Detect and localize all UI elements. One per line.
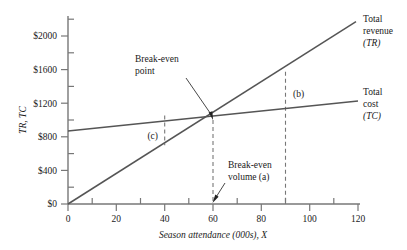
- y-axis-tick-labels: $0 $400 $800 $1200 $1600 $2000: [33, 31, 57, 209]
- x-tick-label-0: 0: [66, 214, 71, 224]
- total-cost-line: [68, 101, 358, 131]
- total-revenue-label-line2: revenue: [363, 26, 393, 36]
- y-tick-label-0: $0: [48, 199, 58, 209]
- total-cost-label: Total cost (TC): [363, 87, 383, 122]
- y-axis-title: TR, TC: [18, 106, 28, 134]
- break-even-point-arrowhead: [209, 111, 213, 120]
- break-even-volume-line1: Break-even: [228, 160, 272, 170]
- total-revenue-label: Total revenue (TR): [363, 14, 393, 49]
- segment-label-b: (b): [293, 89, 304, 100]
- total-revenue-label-line1: Total: [363, 14, 383, 24]
- total-cost-label-line1: Total: [363, 87, 383, 97]
- total-cost-label-line2: cost: [363, 99, 379, 109]
- break-even-point-arrow-line: [186, 78, 212, 115]
- x-axis-tick-labels: 0 20 40 60 80 100 120: [66, 214, 366, 224]
- x-tick-label-80: 80: [257, 214, 267, 224]
- total-revenue-label-line3: (TR): [363, 38, 380, 49]
- break-even-volume-annotation: Break-even volume (a): [213, 160, 273, 203]
- y-tick-label-2000: $2000: [33, 31, 57, 41]
- y-axis-major-ticks: [61, 36, 68, 204]
- y-tick-label-1600: $1600: [33, 65, 57, 75]
- break-even-volume-line2: volume (a): [228, 172, 269, 183]
- y-tick-label-1200: $1200: [33, 99, 57, 109]
- y-tick-label-400: $400: [38, 166, 57, 176]
- total-cost-label-line3: (TC): [363, 111, 381, 122]
- x-axis-title: Season attendance (000s), X: [159, 230, 268, 241]
- break-even-point-line2: point: [135, 66, 155, 76]
- break-even-chart: $0 $400 $800 $1200 $1600 $2000: [0, 0, 407, 250]
- break-even-point-annotation: Break-even point: [135, 54, 213, 120]
- x-axis-major-ticks: [68, 204, 358, 211]
- x-tick-label-20: 20: [112, 214, 122, 224]
- y-axis-minor-ticks: [68, 19, 74, 187]
- reference-lines-group: [165, 72, 286, 204]
- x-tick-label-100: 100: [303, 214, 318, 224]
- chart-svg: $0 $400 $800 $1200 $1600 $2000: [0, 0, 407, 250]
- break-even-point-line1: Break-even: [135, 54, 179, 64]
- x-tick-label-120: 120: [351, 214, 366, 224]
- segment-label-c: (c): [147, 131, 158, 142]
- y-tick-label-800: $800: [38, 132, 57, 142]
- x-tick-label-60: 60: [208, 214, 218, 224]
- x-tick-label-40: 40: [160, 214, 170, 224]
